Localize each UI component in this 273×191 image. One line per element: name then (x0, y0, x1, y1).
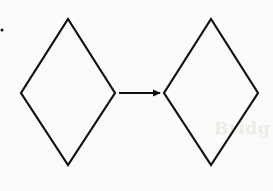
diagram-canvas (0, 0, 273, 191)
diamond-right (164, 19, 258, 165)
diamond-left (21, 19, 115, 165)
stray-dot (1, 29, 4, 32)
